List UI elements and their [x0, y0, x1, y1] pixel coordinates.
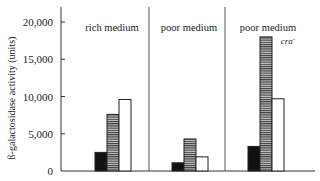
- bar-black-bar-2: [248, 146, 260, 171]
- bar-striped-bar-0: [107, 114, 119, 171]
- y-tick-label: 20,000: [23, 16, 54, 28]
- bar-striped-bar-2: [260, 37, 272, 171]
- y-axis-label: ß-galactosidase activity (units): [6, 37, 18, 160]
- bar-black-bar-0: [95, 152, 107, 171]
- bar-chart: 05,00010,00015,00020,000ß-galactosidase …: [0, 0, 320, 181]
- y-tick-label: 10,000: [23, 91, 54, 103]
- bar-white-bar-0: [119, 99, 131, 171]
- panel-label: poor medium: [240, 22, 296, 33]
- y-tick-label: 0: [48, 165, 54, 177]
- bar-black-bar-1: [172, 163, 184, 171]
- superscript: -: [293, 35, 296, 43]
- y-tick-label: 15,000: [23, 53, 54, 65]
- panel-label: rich medium: [85, 22, 138, 33]
- bar-white-bar-2: [272, 99, 284, 171]
- bar-striped-bar-1: [184, 139, 196, 171]
- bars: [95, 37, 284, 171]
- y-tick-label: 5,000: [28, 128, 53, 140]
- panel-sublabel: cra-: [281, 35, 296, 46]
- panel-label: poor medium: [161, 22, 217, 33]
- bar-white-bar-1: [196, 157, 208, 171]
